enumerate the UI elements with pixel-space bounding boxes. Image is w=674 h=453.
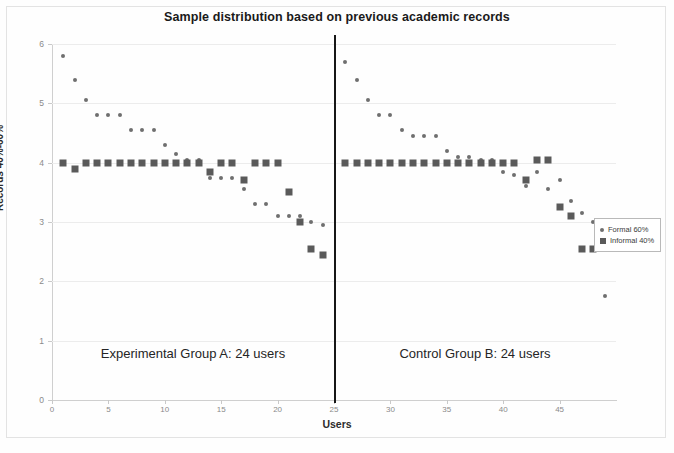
y-tick-mark — [48, 103, 52, 104]
data-point-informal — [409, 159, 416, 166]
y-tick-mark — [48, 222, 52, 223]
data-point-informal — [116, 159, 123, 166]
legend-label: Formal 60% — [608, 225, 648, 234]
data-point-formal — [422, 134, 426, 138]
data-point-informal — [534, 156, 541, 163]
x-tick-mark — [560, 400, 561, 404]
data-point-informal — [218, 159, 225, 166]
x-tick-label: 40 — [499, 405, 508, 414]
data-point-informal — [364, 159, 371, 166]
data-point-informal — [60, 159, 67, 166]
data-point-informal — [432, 159, 439, 166]
data-point-informal — [579, 245, 586, 252]
data-point-informal — [511, 159, 518, 166]
data-point-informal — [297, 219, 304, 226]
data-point-formal — [501, 170, 505, 174]
data-point-formal — [106, 113, 110, 117]
data-point-informal — [206, 168, 213, 175]
data-point-formal — [152, 128, 156, 132]
data-point-informal — [545, 156, 552, 163]
data-point-formal — [366, 98, 370, 102]
data-point-formal — [580, 211, 584, 215]
data-point-formal — [298, 214, 302, 218]
data-point-formal — [343, 60, 347, 64]
data-point-formal — [118, 113, 122, 117]
data-point-formal — [95, 113, 99, 117]
data-point-informal — [263, 159, 270, 166]
legend-item-informal[interactable]: Informal 40% — [600, 236, 654, 245]
data-point-formal — [512, 173, 516, 177]
y-tick-label: 2 — [20, 276, 44, 286]
data-point-informal — [195, 159, 202, 166]
x-tick-label: 25 — [330, 405, 339, 414]
data-point-formal — [309, 220, 313, 224]
data-point-formal — [208, 176, 212, 180]
y-tick-label: 1 — [20, 336, 44, 346]
data-point-formal — [558, 178, 562, 182]
x-tick-label: 5 — [106, 405, 110, 414]
data-point-formal — [524, 184, 528, 188]
data-point-formal — [603, 294, 607, 298]
y-tick-label: 4 — [20, 158, 44, 168]
data-point-informal — [285, 189, 292, 196]
data-point-formal — [61, 54, 65, 58]
data-point-informal — [252, 159, 259, 166]
data-point-informal — [353, 159, 360, 166]
data-point-formal — [546, 187, 550, 191]
x-tick-mark — [503, 400, 504, 404]
data-point-informal — [387, 159, 394, 166]
data-point-informal — [376, 159, 383, 166]
data-point-formal — [456, 155, 460, 159]
data-point-informal — [522, 177, 529, 184]
y-tick-mark — [48, 341, 52, 342]
data-point-informal — [477, 159, 484, 166]
y-tick-mark — [48, 281, 52, 282]
legend-dot-icon — [600, 228, 604, 232]
legend-square-icon — [600, 238, 606, 244]
data-point-informal — [127, 159, 134, 166]
x-tick-label: 0 — [50, 405, 54, 414]
x-tick-mark — [52, 400, 53, 404]
experimental-group-label: Experimental Group A: 24 users — [101, 345, 285, 360]
x-tick-label: 15 — [217, 405, 226, 414]
data-point-formal — [174, 152, 178, 156]
x-tick-label: 35 — [442, 405, 451, 414]
data-point-formal — [73, 78, 77, 82]
data-point-formal — [321, 223, 325, 227]
data-point-informal — [82, 159, 89, 166]
x-tick-label: 20 — [273, 405, 282, 414]
data-point-informal — [342, 159, 349, 166]
data-point-informal — [466, 159, 473, 166]
data-point-formal — [253, 202, 257, 206]
x-axis-title: Users — [0, 418, 674, 430]
data-point-formal — [434, 134, 438, 138]
x-tick-mark — [108, 400, 109, 404]
data-point-formal — [276, 214, 280, 218]
data-point-formal — [129, 128, 133, 132]
control-group-label: Control Group B: 24 users — [399, 345, 550, 360]
legend-item-formal[interactable]: Formal 60% — [600, 225, 654, 234]
y-tick-label: 6 — [20, 39, 44, 49]
data-point-informal — [488, 159, 495, 166]
legend-label: Informal 40% — [610, 236, 654, 245]
data-point-formal — [535, 170, 539, 174]
y-tick-label: 3 — [20, 217, 44, 227]
data-point-informal — [455, 159, 462, 166]
data-point-informal — [240, 177, 247, 184]
data-point-informal — [71, 165, 78, 172]
data-point-formal — [388, 113, 392, 117]
chart-legend: Formal 60%Informal 40% — [594, 218, 661, 252]
data-point-informal — [150, 159, 157, 166]
data-point-informal — [443, 159, 450, 166]
data-point-informal — [556, 204, 563, 211]
data-point-formal — [84, 98, 88, 102]
x-tick-mark — [390, 400, 391, 404]
data-point-formal — [569, 199, 573, 203]
data-point-informal — [567, 213, 574, 220]
data-point-formal — [163, 143, 167, 147]
data-point-formal — [400, 128, 404, 132]
x-tick-mark — [165, 400, 166, 404]
data-point-informal — [500, 159, 507, 166]
data-point-informal — [308, 245, 315, 252]
chart-screenshot: Sample distribution based on previous ac… — [0, 0, 674, 453]
